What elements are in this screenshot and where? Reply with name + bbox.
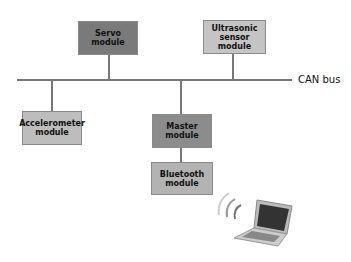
ultrasonic-module: Ultrasonic sensor module (203, 20, 266, 54)
can-bus-label: CAN bus (298, 74, 340, 85)
bluetooth-module: Bluetooth module (151, 162, 213, 195)
servo-module: Servo module (78, 21, 138, 55)
servo-connector (108, 55, 110, 80)
master-connector (180, 80, 182, 114)
accelerometer-connector (51, 80, 53, 111)
laptop-icon (232, 196, 302, 251)
ultrasonic-connector (232, 54, 234, 80)
can-bus-line (17, 79, 292, 81)
master-module: Master module (152, 114, 212, 148)
bluetooth-connector (180, 148, 182, 162)
accelerometer-module: Accelerometer module (22, 111, 82, 145)
